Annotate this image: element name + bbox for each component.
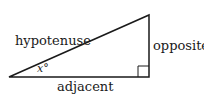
- opposite-label: opposite: [153, 39, 204, 52]
- adjacent-label: adjacent: [57, 80, 113, 93]
- right-angle-marker: [138, 66, 149, 77]
- right-triangle-diagram: hypotenuse opposite adjacent x°: [0, 0, 204, 96]
- angle-label: x°: [37, 63, 49, 74]
- hypotenuse-label: hypotenuse: [15, 34, 91, 47]
